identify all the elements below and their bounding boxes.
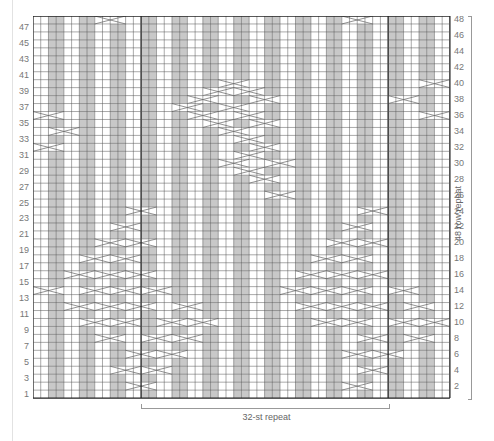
row-label-left: 19 bbox=[7, 246, 29, 255]
row-label-right: 40 bbox=[454, 79, 464, 88]
row-label-left: 45 bbox=[7, 39, 29, 48]
row-label-right: 30 bbox=[454, 159, 464, 168]
stitch-repeat-label: 32-st repeat bbox=[243, 412, 291, 422]
row-label-left: 27 bbox=[7, 183, 29, 192]
row-label-right: 12 bbox=[454, 302, 464, 311]
knitting-chart-grid bbox=[33, 16, 452, 401]
row-label-right: 6 bbox=[454, 350, 459, 359]
row-label-right: 8 bbox=[454, 334, 459, 343]
row-label-right: 48 bbox=[454, 15, 464, 24]
row-label-left: 23 bbox=[7, 214, 29, 223]
row-label-left: 3 bbox=[7, 374, 29, 383]
row-label-right: 32 bbox=[454, 143, 464, 152]
row-label-right: 38 bbox=[454, 95, 464, 104]
stitch-repeat-bracket bbox=[141, 404, 390, 409]
row-label-right: 42 bbox=[454, 63, 464, 72]
row-label-right: 36 bbox=[454, 111, 464, 120]
row-label-left: 41 bbox=[7, 71, 29, 80]
row-label-left: 5 bbox=[7, 358, 29, 367]
row-label-right: 34 bbox=[454, 127, 464, 136]
row-label-left: 39 bbox=[7, 87, 29, 96]
row-label-left: 37 bbox=[7, 103, 29, 112]
row-label-left: 33 bbox=[7, 135, 29, 144]
row-label-right: 4 bbox=[454, 366, 459, 375]
row-label-left: 35 bbox=[7, 119, 29, 128]
row-label-right: 46 bbox=[454, 31, 464, 40]
row-label-left: 31 bbox=[7, 151, 29, 160]
row-label-left: 1 bbox=[7, 390, 29, 399]
row-label-left: 9 bbox=[7, 326, 29, 335]
row-label-left: 47 bbox=[7, 23, 29, 32]
row-label-left: 29 bbox=[7, 167, 29, 176]
row-label-left: 21 bbox=[7, 230, 29, 239]
row-label-right: 18 bbox=[454, 254, 464, 263]
row-label-left: 15 bbox=[7, 278, 29, 287]
row-label-left: 43 bbox=[7, 55, 29, 64]
row-label-left: 11 bbox=[7, 310, 29, 319]
row-label-right: 10 bbox=[454, 318, 464, 327]
row-label-left: 7 bbox=[7, 342, 29, 351]
row-repeat-label: 48 row repeat bbox=[453, 186, 463, 241]
row-label-right: 2 bbox=[454, 382, 459, 391]
row-label-left: 17 bbox=[7, 262, 29, 271]
row-repeat-bracket bbox=[468, 16, 472, 400]
row-label-right: 16 bbox=[454, 270, 464, 279]
row-label-left: 25 bbox=[7, 199, 29, 208]
row-label-left: 13 bbox=[7, 294, 29, 303]
row-label-right: 44 bbox=[454, 47, 464, 56]
row-label-right: 14 bbox=[454, 286, 464, 295]
row-label-right: 28 bbox=[454, 175, 464, 184]
